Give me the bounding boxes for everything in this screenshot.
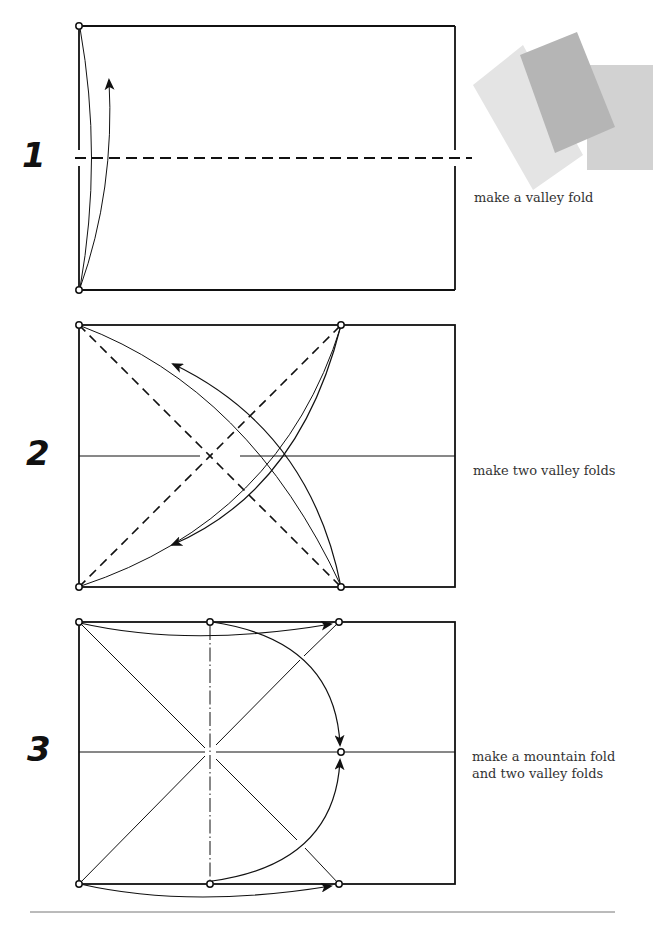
step-2-number: 2 <box>26 433 50 473</box>
step-2-diagram <box>76 322 455 590</box>
step-3-diagram <box>76 619 455 897</box>
step-1-caption: make a valley fold <box>474 189 593 206</box>
step-2-caption: make two valley folds <box>473 462 615 479</box>
step-1-number: 1 <box>22 135 46 175</box>
paper-swatches-illustration <box>473 32 653 190</box>
step-3-caption: make a mountain fold and two valley fold… <box>472 748 615 782</box>
step-1-diagram <box>75 23 472 293</box>
step-3-number: 3 <box>27 729 51 769</box>
